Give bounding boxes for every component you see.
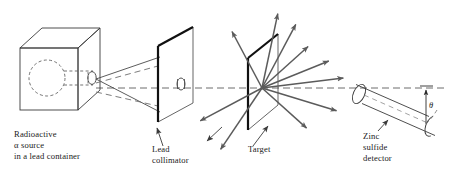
- lead-container-box: [20, 28, 100, 110]
- collimator-label-line-1: Lead: [152, 144, 170, 154]
- target-label-line-1: Target: [248, 144, 271, 154]
- rutherford-scattering-diagram: Radioactive α source in a lead container…: [0, 0, 458, 180]
- caption-target: Target: [248, 144, 271, 154]
- detector-label-line-3: detector: [363, 153, 392, 163]
- diagram-canvas: Radioactive α source in a lead container…: [0, 0, 458, 180]
- detector-label-line-2: sulfide: [363, 142, 387, 152]
- caption-detector: Zinc sulfide detector: [363, 131, 392, 163]
- theta-symbol: θ: [429, 101, 433, 110]
- ray-down-left-1: [221, 88, 262, 149]
- ray-down-right-2: [262, 88, 307, 128]
- caption-collimator: Lead collimator: [152, 144, 189, 165]
- source-label-line-1: Radioactive: [14, 129, 57, 139]
- label-leader-arrows: [157, 120, 388, 146]
- ray-down-right-1: [262, 88, 337, 111]
- caption-source: Radioactive α source in a lead container: [14, 129, 80, 161]
- source-label-line-3: in a lead container: [14, 151, 80, 161]
- collimator-label-line-2: collimator: [152, 155, 189, 165]
- detector-cylinder: [350, 82, 439, 137]
- ray-up-right-1: [262, 24, 296, 88]
- scattering-point: [260, 86, 263, 89]
- ray-down-left-2: [200, 88, 262, 121]
- lead-collimator-plate: [158, 27, 193, 122]
- detector-label-line-1: Zinc: [363, 131, 379, 141]
- scattered-alpha-rays: [200, 14, 343, 150]
- source-label-line-2: α source: [14, 140, 44, 150]
- collimated-alpha-beam: [96, 57, 160, 112]
